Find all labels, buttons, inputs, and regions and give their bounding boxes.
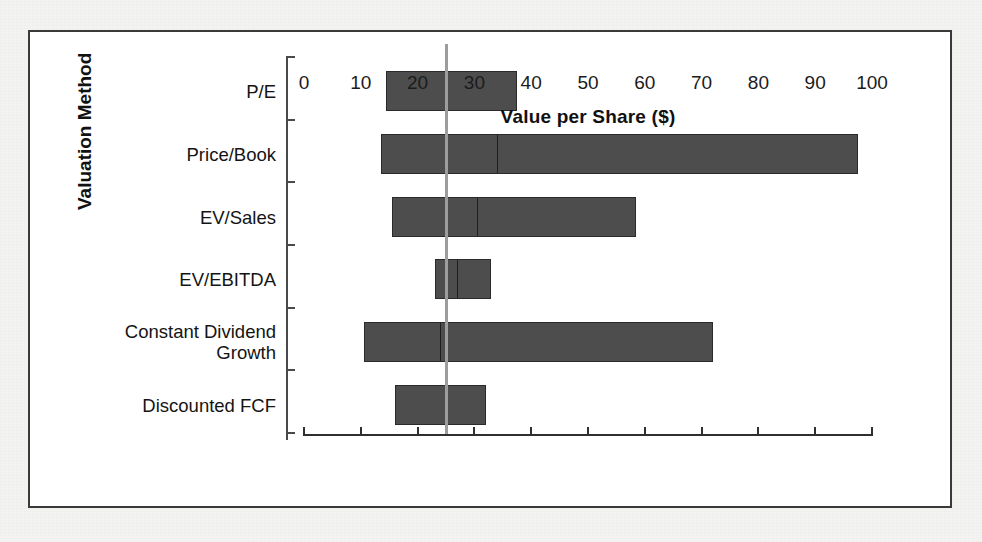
x-tick-label: 100 (856, 72, 888, 94)
bar-midpoint-divider (440, 323, 441, 361)
x-tick (530, 427, 532, 436)
y-axis-category-label: Constant Dividend Growth (36, 321, 276, 363)
y-axis-category-label: Price/Book (36, 144, 276, 165)
y-axis-category-label: EV/Sales (36, 206, 276, 227)
x-tick (814, 427, 816, 436)
x-tick (473, 427, 475, 436)
x-tick-label: 40 (521, 72, 542, 94)
x-tick-label: 10 (350, 72, 371, 94)
x-tick-label: 60 (634, 72, 655, 94)
y-axis-category-label: Discounted FCF (36, 394, 276, 415)
x-tick (701, 427, 703, 436)
y-tick (286, 181, 295, 183)
range-bar (435, 259, 492, 299)
y-axis-category-label: P/E (36, 81, 276, 102)
x-tick-label: 0 (299, 72, 310, 94)
x-tick (417, 427, 419, 436)
y-tick (286, 119, 295, 121)
y-tick (286, 369, 295, 371)
x-tick (871, 427, 873, 436)
x-tick-label: 20 (407, 72, 428, 94)
y-axis-category-label: EV/EBITDA (36, 269, 276, 290)
chart-page: Valuation Method P/EPrice/BookEV/SalesEV… (0, 0, 982, 542)
x-tick-label: 90 (805, 72, 826, 94)
y-tick (286, 244, 295, 246)
bar-midpoint-divider (477, 198, 478, 236)
bar-midpoint-divider (457, 260, 458, 298)
range-bar (364, 322, 713, 362)
y-axis-spine (286, 56, 296, 440)
range-bar (392, 197, 636, 237)
x-tick (757, 427, 759, 436)
plot-area: P/EPrice/BookEV/SalesEV/EBITDAConstant D… (304, 60, 872, 436)
y-tick (286, 432, 295, 434)
x-tick (303, 427, 305, 436)
reference-line (445, 44, 448, 436)
bar-midpoint-divider (497, 135, 498, 173)
x-tick (360, 427, 362, 436)
x-tick (644, 427, 646, 436)
x-tick-label: 70 (691, 72, 712, 94)
y-tick (286, 56, 295, 58)
range-bar (381, 134, 858, 174)
y-tick (286, 307, 295, 309)
figure-frame: Valuation Method P/EPrice/BookEV/SalesEV… (28, 30, 952, 508)
y-axis-category-labels: P/EPrice/BookEV/SalesEV/EBITDAConstant D… (26, 60, 276, 436)
x-tick-label: 30 (464, 72, 485, 94)
x-tick-label: 80 (748, 72, 769, 94)
x-axis-title: Value per Share ($) (304, 106, 872, 128)
x-tick-label: 50 (577, 72, 598, 94)
x-tick (587, 427, 589, 436)
range-bar (395, 385, 486, 425)
